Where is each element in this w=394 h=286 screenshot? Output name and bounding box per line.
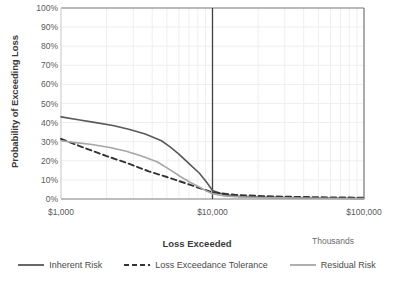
y-tick-label: 40%: [20, 119, 58, 127]
x-tick-label: $100,000: [342, 207, 386, 217]
y-tick-label: 20%: [20, 157, 58, 165]
legend-item[interactable]: Residual Risk: [290, 260, 376, 270]
y-tick-label: 10%: [20, 176, 58, 184]
y-tick-label: 30%: [20, 138, 58, 146]
y-tick-label: 80%: [20, 42, 58, 50]
legend-item[interactable]: Inherent Risk: [18, 260, 102, 270]
legend-label: Loss Exceedance Tolerance: [155, 260, 267, 270]
y-tick-label: 60%: [20, 80, 58, 88]
legend-item[interactable]: Loss Exceedance Tolerance: [124, 260, 267, 270]
legend-label: Residual Risk: [321, 260, 376, 270]
x-tick-label: $1,000: [39, 207, 83, 217]
y-tick-label: 100%: [20, 4, 58, 12]
chart-legend: Inherent RiskLoss Exceedance ToleranceRe…: [0, 260, 394, 270]
legend-swatch-dashed-line-icon: [124, 261, 150, 269]
y-tick-label: 50%: [20, 100, 58, 108]
legend-swatch-solid-line-icon: [290, 261, 316, 269]
x-axis-units-note: Thousands: [312, 236, 354, 246]
legend-label: Inherent Risk: [49, 260, 102, 270]
y-tick-label: 70%: [20, 61, 58, 69]
legend-swatch-solid-line-icon: [18, 261, 44, 269]
y-tick-label: 90%: [20, 23, 58, 31]
loss-exceedance-curve-chart: Probability of Exceeding Loss 100%90%80%…: [0, 0, 394, 286]
x-tick-label: $10,000: [191, 207, 235, 217]
y-tick-label: 0%: [20, 195, 58, 203]
